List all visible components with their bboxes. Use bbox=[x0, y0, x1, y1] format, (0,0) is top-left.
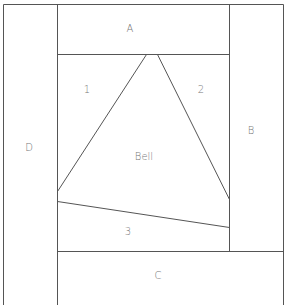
label-c: C bbox=[155, 270, 162, 281]
bell-bottom-edge bbox=[58, 202, 230, 228]
label-bell: Bell bbox=[135, 151, 153, 162]
label-b: B bbox=[248, 125, 255, 136]
label-d: D bbox=[25, 142, 33, 153]
label-2: 2 bbox=[198, 84, 204, 95]
label-3: 3 bbox=[125, 226, 131, 237]
label-1: 1 bbox=[84, 84, 90, 95]
bell-right-edge bbox=[158, 55, 230, 200]
bell-block-diagram: A 1 2 B D Bell 3 C bbox=[0, 0, 287, 305]
bell-left-edge bbox=[58, 55, 147, 192]
label-a: A bbox=[127, 23, 134, 34]
